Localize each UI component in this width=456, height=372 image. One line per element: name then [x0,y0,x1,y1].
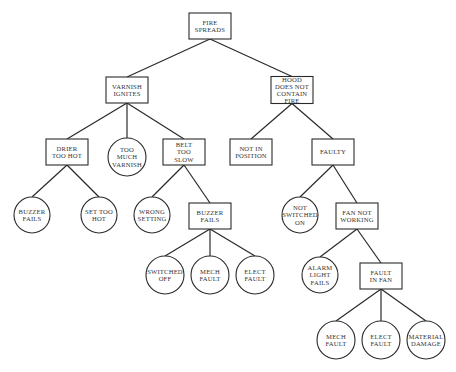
gate-event-fire-spreads: FIRESPREADS [189,13,231,39]
event-label: HOT [92,215,106,222]
event-label: SETTING [138,215,167,222]
gate-event-belt-too-slow: BELTTOOSLOW [163,139,205,165]
event-label: OFF [159,275,172,282]
event-label: FAULTY [320,148,346,155]
edge-fire-spreads-to-varnish-ignites [127,39,210,77]
fault-tree-diagram: FIRESPREADSVARNISHIGNITESHOODDOES NOTCON… [0,0,456,372]
event-label: BUZZER [19,208,46,215]
basic-event-set-too-hot: SET TOOHOT [81,197,117,233]
event-label: FAULT [370,269,391,276]
event-label: IN FAN [370,276,393,283]
event-label: FAN NOT [342,209,371,216]
gate-event-drier-too-hot: DRIERTOO HOT [46,139,88,165]
basic-event-material-damage: MATERIALDAMAGE [407,321,445,359]
event-label: SET TOO [85,208,113,215]
event-label: FAULT [325,340,346,347]
event-label: WORKING [340,216,373,223]
edge-hood-not-contain-to-not-in-position [251,104,292,140]
event-label: MUCH [117,153,138,160]
gate-event-fault-in-fan: FAULTIN FAN [360,263,402,289]
event-label: FAULT [244,275,265,282]
event-label: MECH [200,268,220,275]
edge-drier-too-hot-to-buzzer-fails-1 [32,165,67,197]
gate-event-hood-not-contain: HOODDOES NOTCONTAINFIRE [271,76,313,105]
edge-fault-in-fan-to-mech-fault-2 [336,289,381,321]
event-label: POSITION [235,152,267,159]
event-label: FAILS [201,216,220,223]
basic-event-buzzer-fails-1: BUZZERFAILS [14,197,50,233]
event-label: LIGHT [310,271,331,278]
event-label: WRONG [139,208,165,215]
event-label: ALARM [308,264,333,271]
edge-varnish-ignites-to-drier-too-hot [67,103,127,139]
edge-belt-too-slow-to-wrong-setting [152,165,184,197]
event-label: BUZZER [197,209,224,216]
event-label: DRIER [57,145,78,152]
gate-event-buzzer-fails-2: BUZZERFAILS [189,203,231,229]
basic-event-too-much-varnish: TOOMUCHVARNISH [108,138,146,176]
event-label: FAILS [23,215,42,222]
gate-event-fan-not-working: FAN NOTWORKING [336,203,378,229]
edge-varnish-ignites-to-belt-too-slow [127,103,184,139]
basic-event-elect-fault-1: ELECTFAULT [236,256,274,294]
event-label: BELT [176,141,193,148]
event-label: MATERIAL [409,333,444,340]
gate-event-faulty: FAULTY [312,139,354,165]
edge-fan-not-working-to-alarm-light-fails [320,229,357,257]
event-label: NOT [293,204,307,211]
event-label: FAILS [311,279,330,286]
gate-event-not-in-position: NOT INPOSITION [230,139,272,165]
edge-belt-too-slow-to-buzzer-fails-2 [184,165,210,203]
edge-faulty-to-not-switched-on [300,165,333,197]
basic-event-switched-off: SWITCHEDOFF [146,256,184,294]
event-label: DAMAGE [411,340,441,347]
event-label: ELECT [370,333,392,340]
basic-event-alarm-light-fails: ALARMLIGHTFAILS [302,257,338,293]
event-label: ELECT [244,268,266,275]
nodes-layer: FIRESPREADSVARNISHIGNITESHOODDOES NOTCON… [14,13,445,359]
event-label: SLOW [174,156,194,163]
event-label: DOES NOT [275,83,309,90]
event-label: ON [295,219,305,226]
event-label: FIRE [202,19,217,26]
event-label: FAULT [370,340,391,347]
basic-event-not-switched-on: NOTSWITCHEDON [282,197,318,233]
event-label: SWITCHED [147,268,183,275]
event-label: TOO [177,148,191,155]
event-label: TOO HOT [52,152,82,159]
basic-event-wrong-setting: WRONGSETTING [134,197,170,233]
edge-faulty-to-fan-not-working [333,165,357,203]
event-label: MECH [326,333,346,340]
edge-hood-not-contain-to-faulty [292,104,333,140]
event-label: SPREADS [195,26,225,33]
event-label: HOOD [282,76,302,83]
event-label: NOT IN [239,145,262,152]
event-label: IGNITES [113,90,140,97]
event-label: VARNISH [112,161,142,168]
event-label: SWITCHED [282,211,318,218]
edge-drier-too-hot-to-set-too-hot [67,165,99,197]
edge-fault-in-fan-to-material-damage [381,289,426,321]
event-label: CONTAIN [277,90,308,97]
event-label: FAULT [199,275,220,282]
edge-buzzer-fails-2-to-elect-fault-1 [210,229,255,256]
basic-event-elect-fault-2: ELECTFAULT [362,321,400,359]
gate-event-varnish-ignites: VARNISHIGNITES [106,77,148,103]
event-label: TOO [120,146,134,153]
edge-buzzer-fails-2-to-switched-off [165,229,210,256]
event-label: VARNISH [112,83,142,90]
fault-tree-canvas: FIRESPREADSVARNISHIGNITESHOODDOES NOTCON… [0,0,456,372]
edge-fan-not-working-to-fault-in-fan [357,229,381,263]
basic-event-mech-fault-1: MECHFAULT [191,256,229,294]
event-label: FIRE [284,97,299,104]
basic-event-mech-fault-2: MECHFAULT [317,321,355,359]
edge-fire-spreads-to-hood-not-contain [210,39,292,77]
